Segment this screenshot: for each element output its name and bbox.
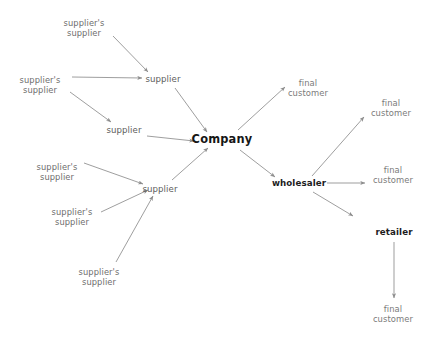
edges-group xyxy=(70,36,394,298)
edge-s3-to-co xyxy=(172,148,208,180)
edge-ss4-to-s3 xyxy=(101,190,148,212)
edge-ss2-to-s2 xyxy=(70,92,111,122)
edge-s1-to-co xyxy=(175,88,207,132)
edge-ss5-to-s3 xyxy=(116,196,153,262)
edge-ss2-to-s1 xyxy=(72,77,142,78)
edge-layer xyxy=(0,0,430,337)
edge-ss1-to-s1 xyxy=(113,36,148,72)
edge-wh-to-rt xyxy=(313,192,353,216)
edge-wh-to-fc2 xyxy=(312,117,364,176)
edge-co-to-fc1 xyxy=(238,87,285,130)
supply-chain-diagram: supplier'ssuppliersupplier'ssuppliersupp… xyxy=(0,0,430,337)
edge-co-to-wh xyxy=(240,150,275,177)
edge-ss3-to-s3 xyxy=(84,163,143,184)
edge-s2-to-co xyxy=(147,136,194,141)
